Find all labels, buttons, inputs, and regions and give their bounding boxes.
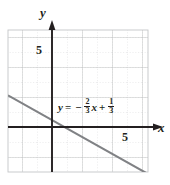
y-axis-label: y xyxy=(40,6,46,19)
equation-lhs: y xyxy=(58,101,63,113)
graph-canvas xyxy=(0,0,170,185)
x-axis-label: x xyxy=(158,121,165,134)
equation-variable-x: x xyxy=(91,101,97,113)
y-axis-arrow xyxy=(49,20,56,30)
y-axis-tick-label-5: 5 xyxy=(36,44,42,56)
x-axis-tick-label-5: 5 xyxy=(122,131,128,143)
equation-minus-sign: − xyxy=(75,101,81,113)
equation-plus-sign: + xyxy=(99,101,105,113)
intercept-denominator: 3 xyxy=(108,106,114,115)
slope-fraction: 2 3 xyxy=(84,98,90,116)
intercept-fraction: 1 3 xyxy=(108,98,114,116)
intercept-numerator: 1 xyxy=(108,98,114,106)
slope-numerator: 2 xyxy=(84,98,90,106)
equation-annotation: y = − 2 3 x + 1 3 xyxy=(58,98,115,116)
slope-denominator: 3 xyxy=(84,106,90,115)
coordinate-plane-figure: y x 5 5 y = − 2 3 x + 1 3 xyxy=(0,0,170,185)
equation-equals: = xyxy=(65,101,71,113)
